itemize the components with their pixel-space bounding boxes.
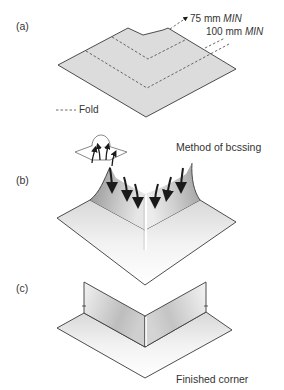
panel-b-label: (b) <box>16 174 29 186</box>
dimension-label-75mm: 75 mm MIN <box>190 13 242 24</box>
panel-b-sheet <box>57 135 236 285</box>
diagram-artwork <box>0 0 284 390</box>
dimension-label-100mm: 100 mm MIN <box>206 26 263 37</box>
dimension-suffix-75mm: MIN <box>223 13 241 24</box>
dimension-value-100mm: 100 mm <box>206 26 242 37</box>
mallet-sketch <box>75 135 127 160</box>
fold-legend-label: Fold <box>79 104 98 115</box>
panel-c-label: (c) <box>16 282 28 294</box>
dimension-value-75mm: 75 mm <box>190 13 221 24</box>
panel-b-caption: Method of bcssing <box>176 141 261 153</box>
panel-c-caption: Finished corner <box>176 373 248 385</box>
panel-a-label: (a) <box>16 20 29 32</box>
dimension-suffix-100mm: MIN <box>245 26 263 37</box>
panel-c-sheet <box>57 282 232 378</box>
